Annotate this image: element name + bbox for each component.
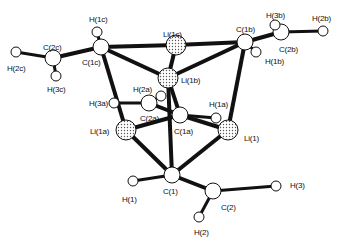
molecular-structure-diagram: Li(1c)Li(1b)Li(1a)Li(1)C(1c)C(1b)C(1a)C(… xyxy=(0,0,341,242)
atom-h3b xyxy=(270,20,280,30)
atom-label-li1c: Li(1c) xyxy=(163,30,182,39)
atom-h3c xyxy=(51,71,61,81)
atom-h2b xyxy=(318,26,328,36)
atom-li1b xyxy=(158,68,178,88)
atom-label-h1b: H(1b) xyxy=(265,57,284,66)
atom-h2 xyxy=(194,212,204,222)
atom-label-h3c: H(3c) xyxy=(47,85,66,94)
atom-label-h3b: H(3b) xyxy=(266,11,285,20)
atom-label-li1: Li(1) xyxy=(244,134,259,143)
atom-li1 xyxy=(218,120,238,140)
atom-h1 xyxy=(128,176,138,186)
atom-label-c2c: C(2c) xyxy=(43,43,62,52)
atom-label-c2: C(2) xyxy=(221,203,236,212)
atom-h2c xyxy=(11,47,21,57)
atom-li1a xyxy=(116,120,136,140)
atom-label-h3: H(3) xyxy=(290,181,305,190)
bond-C1b-Li1 xyxy=(228,42,245,130)
atom-label-h2a: H(2a) xyxy=(133,85,152,94)
atom-c1b xyxy=(237,34,253,50)
atom-h1a xyxy=(211,113,221,123)
atom-label-h3a: H(3a) xyxy=(89,99,108,108)
bond-C1c-Li1c xyxy=(101,45,176,47)
atom-h2a xyxy=(156,91,166,101)
atom-label-c2b: C(2b) xyxy=(279,45,298,54)
atom-c1a xyxy=(172,107,188,123)
atom-label-c2a: C(2a) xyxy=(140,114,159,123)
bond-C1c-Li1a xyxy=(101,47,126,130)
atom-label-h2: H(2) xyxy=(194,228,209,237)
atom-label-c1b: C(1b) xyxy=(236,25,255,34)
atom-label-h1c: H(1c) xyxy=(89,15,108,24)
atom-h1b xyxy=(251,47,261,57)
atom-label-c1c: C(1c) xyxy=(82,58,101,67)
atom-h3a xyxy=(109,98,119,108)
atom-c2 xyxy=(205,183,221,199)
atom-label-h1: H(1) xyxy=(122,195,137,204)
atom-h3 xyxy=(271,181,281,191)
bond-C1-Li1 xyxy=(172,130,228,175)
bond-C2-H3 xyxy=(213,186,276,191)
atom-label-h1a: H(1a) xyxy=(209,100,228,109)
atom-label-li1a: Li(1a) xyxy=(90,127,109,136)
atom-c1 xyxy=(164,167,180,183)
atom-label-c1: C(1) xyxy=(163,187,178,196)
atom-h1c xyxy=(92,27,102,37)
atom-c2c xyxy=(45,50,61,66)
bond-C1c-Li1b xyxy=(101,47,168,78)
atom-c2a xyxy=(141,95,157,111)
atom-label-c1a: C(1a) xyxy=(174,127,193,136)
atom-label-h2b: H(2b) xyxy=(312,14,331,23)
atom-label-li1b: Li(1b) xyxy=(181,76,200,85)
atom-c1c xyxy=(93,39,109,55)
atom-label-h2c: H(2c) xyxy=(7,64,26,73)
